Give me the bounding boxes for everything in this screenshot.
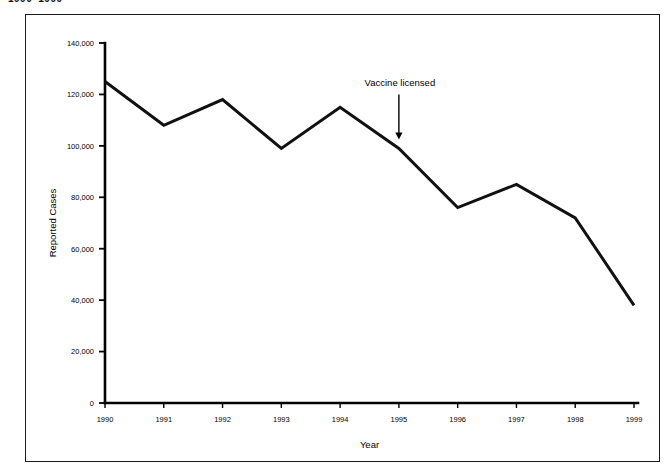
- chart-frame: 020,00040,00060,00080,000100,000120,0001…: [25, 14, 660, 462]
- x-axis-tick-label: 1999: [626, 415, 643, 424]
- chart-plot-area: 020,00040,00060,00080,000100,000120,0001…: [26, 15, 659, 461]
- x-axis-tick-label: 1990: [97, 415, 114, 424]
- clipped-header-text: 1990–1999: [8, 0, 63, 4]
- y-axis-tick-label: 120,000: [67, 90, 94, 99]
- x-axis-tick-label: 1998: [567, 415, 584, 424]
- y-axis-tick-label: 140,000: [67, 39, 94, 48]
- y-axis-tick-label: 80,000: [71, 193, 94, 202]
- y-axis-tick-label: 0: [90, 399, 94, 408]
- annotation-arrow-head-icon: [395, 132, 402, 139]
- x-axis-tick-label: 1991: [155, 415, 172, 424]
- line-chart: 020,00040,00060,00080,000100,000120,0001…: [26, 15, 659, 461]
- data-series-line: [105, 82, 634, 306]
- x-axis-tick-label: 1997: [508, 415, 525, 424]
- annotation-label: Vaccine licensed: [365, 77, 436, 88]
- y-axis-tick-labels: 020,00040,00060,00080,000100,000120,0001…: [67, 39, 94, 408]
- y-axis-tick-label: 100,000: [67, 142, 94, 151]
- y-axis-tick-label: 60,000: [71, 245, 94, 254]
- x-axis-tick-label: 1992: [214, 415, 231, 424]
- x-axis-tick-label: 1993: [273, 415, 290, 424]
- y-axis-title: Reported Cases: [47, 188, 58, 257]
- x-axis-tick-label: 1996: [449, 415, 466, 424]
- y-axis-tick-label: 20,000: [71, 347, 94, 356]
- x-axis-tick-label: 1995: [391, 415, 408, 424]
- y-axis-tick-label: 40,000: [71, 296, 94, 305]
- x-axis-tick-label: 1994: [332, 415, 349, 424]
- x-axis-tick-labels: 1990199119921993199419951996199719981999: [97, 415, 643, 424]
- x-axis-title: Year: [360, 439, 379, 450]
